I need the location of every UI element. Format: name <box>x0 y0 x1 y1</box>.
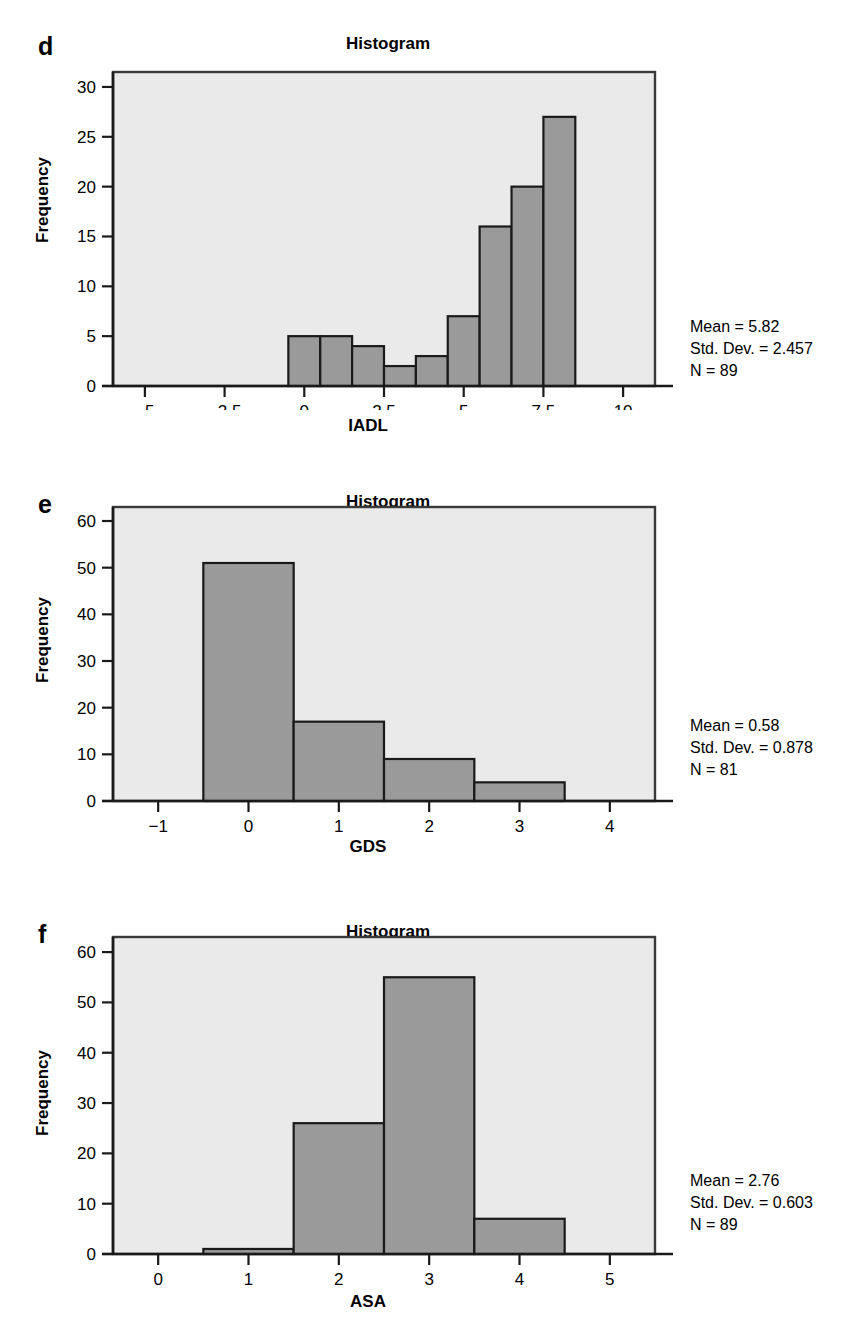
y-tick-label: 25 <box>77 128 96 147</box>
x-tick-label: −5 <box>135 402 154 410</box>
stats-n-e: N = 81 <box>690 759 813 781</box>
y-tick-label: 30 <box>77 1094 96 1113</box>
histogram-plot-f: 0102030405060012345 <box>0 885 680 1287</box>
y-tick-label: 5 <box>87 327 96 346</box>
y-tick-label: 20 <box>77 1144 96 1163</box>
x-tick-label: 0 <box>153 1270 162 1287</box>
x-axis-label-f: ASA <box>308 1292 428 1312</box>
histogram-plot-e: 0102030405060−101234 <box>0 460 680 832</box>
y-tick-label: 20 <box>77 178 96 197</box>
x-axis-label-d: IADL <box>308 416 428 436</box>
x-tick-label: 1 <box>334 817 343 832</box>
x-tick-label: −1 <box>148 817 167 832</box>
x-tick-label: 10 <box>614 402 633 410</box>
x-tick-label: 3 <box>515 817 524 832</box>
y-tick-label: 20 <box>77 699 96 718</box>
y-tick-label: 40 <box>77 605 96 624</box>
y-tick-label: 0 <box>87 377 96 396</box>
histogram-bar <box>474 1219 564 1254</box>
histogram-bar <box>474 782 564 801</box>
x-tick-label: 5 <box>605 1270 614 1287</box>
y-tick-label: 0 <box>87 1245 96 1264</box>
histogram-bar <box>294 1123 384 1254</box>
histogram-plot-d: 051015202530−5−2.502.557.510 <box>0 0 680 410</box>
stats-mean-f: Mean = 2.76 <box>690 1170 813 1192</box>
x-tick-label: 4 <box>515 1270 524 1287</box>
y-tick-label: 50 <box>77 993 96 1012</box>
histogram-bar <box>480 227 512 386</box>
stats-stddev-d: Std. Dev. = 2.457 <box>690 338 813 360</box>
y-tick-label: 30 <box>77 652 96 671</box>
y-tick-label: 30 <box>77 78 96 97</box>
histogram-bar <box>288 336 320 386</box>
y-tick-label: 60 <box>77 943 96 962</box>
y-tick-label: 0 <box>87 792 96 811</box>
histogram-bar <box>448 316 480 386</box>
x-tick-label: 0 <box>300 402 309 410</box>
x-tick-label: 2 <box>424 817 433 832</box>
x-tick-label: 0 <box>244 817 253 832</box>
x-tick-label: 5 <box>459 402 468 410</box>
histogram-bar <box>320 336 352 386</box>
x-tick-label: 3 <box>424 1270 433 1287</box>
histogram-bar <box>543 117 575 386</box>
stats-n-f: N = 89 <box>690 1214 813 1236</box>
stats-annotation-f: Mean = 2.76 Std. Dev. = 0.603 N = 89 <box>690 1170 813 1236</box>
stats-mean-e: Mean = 0.58 <box>690 715 813 737</box>
stats-mean-d: Mean = 5.82 <box>690 316 813 338</box>
histogram-bar <box>384 366 416 386</box>
x-tick-label: −2.5 <box>208 402 242 410</box>
x-tick-label: 2.5 <box>372 402 396 410</box>
x-tick-label: 2 <box>334 1270 343 1287</box>
stats-n-d: N = 89 <box>690 360 813 382</box>
histogram-bar <box>294 722 384 801</box>
y-tick-label: 15 <box>77 227 96 246</box>
histogram-panel-d: d Histogram Frequency IADL 051015202530−… <box>0 0 858 460</box>
y-tick-label: 60 <box>77 512 96 531</box>
histogram-bar <box>352 346 384 386</box>
histogram-bar <box>384 759 474 801</box>
histogram-bar <box>416 356 448 386</box>
histogram-bar <box>384 977 474 1254</box>
histogram-panel-f: f Histogram Frequency ASA 01020304050600… <box>0 885 858 1339</box>
histogram-bar <box>203 563 293 801</box>
y-tick-label: 10 <box>77 745 96 764</box>
x-tick-label: 4 <box>605 817 614 832</box>
x-axis-label-e: GDS <box>308 837 428 857</box>
y-tick-label: 40 <box>77 1044 96 1063</box>
y-tick-label: 10 <box>77 1195 96 1214</box>
y-tick-label: 50 <box>77 559 96 578</box>
histogram-bar <box>512 187 544 386</box>
y-tick-label: 10 <box>77 277 96 296</box>
stats-stddev-e: Std. Dev. = 0.878 <box>690 737 813 759</box>
x-tick-label: 7.5 <box>532 402 556 410</box>
stats-annotation-d: Mean = 5.82 Std. Dev. = 2.457 N = 89 <box>690 316 813 382</box>
stats-annotation-e: Mean = 0.58 Std. Dev. = 0.878 N = 81 <box>690 715 813 781</box>
histogram-panel-e: e Histogram Frequency GDS 0102030405060−… <box>0 460 858 885</box>
x-tick-label: 1 <box>244 1270 253 1287</box>
stats-stddev-f: Std. Dev. = 0.603 <box>690 1192 813 1214</box>
